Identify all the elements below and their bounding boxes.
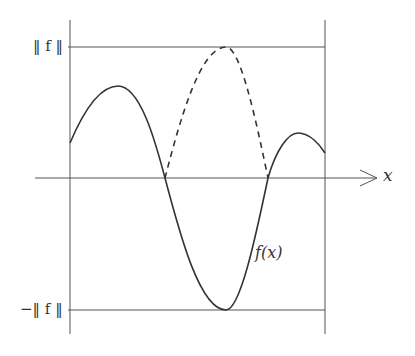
curve-label: f(x) — [255, 243, 282, 262]
x-axis-label: x — [383, 165, 393, 185]
upper-norm-label: ‖ f ‖ — [33, 37, 63, 55]
lower-norm-label: −‖ f ‖ — [20, 300, 63, 318]
reflected-dashed-curve — [165, 47, 268, 178]
function-norm-diagram: ‖ f ‖ −‖ f ‖ x f(x) — [0, 0, 415, 356]
function-curve — [70, 86, 325, 310]
